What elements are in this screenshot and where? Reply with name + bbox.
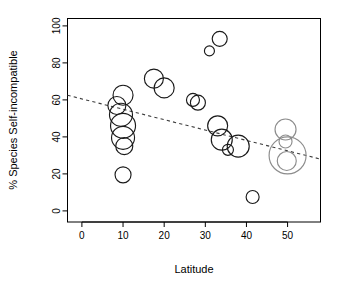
x-tick-label-50: 50 xyxy=(282,230,294,241)
scatter-plot-figure: 020406080100 01020304050 Latitude % Spec… xyxy=(0,0,339,291)
y-tick-label-80: 80 xyxy=(51,57,62,69)
y-tick-label-100: 100 xyxy=(51,17,62,34)
x-axis-title: Latitude xyxy=(174,263,213,275)
figure-background xyxy=(0,0,339,291)
y-axis-title: % Species Self-incompatible xyxy=(7,50,19,189)
y-tick-label-60: 60 xyxy=(51,94,62,106)
x-tick-label-10: 10 xyxy=(117,230,129,241)
x-tick-label-30: 30 xyxy=(200,230,212,241)
x-tick-label-20: 20 xyxy=(159,230,171,241)
y-tick-label-40: 40 xyxy=(51,131,62,143)
y-tick-label-0: 0 xyxy=(51,208,62,214)
x-tick-label-0: 0 xyxy=(79,230,85,241)
plot-canvas: 020406080100 01020304050 Latitude % Spec… xyxy=(0,0,339,291)
x-tick-label-40: 40 xyxy=(241,230,253,241)
y-tick-label-20: 20 xyxy=(51,168,62,180)
